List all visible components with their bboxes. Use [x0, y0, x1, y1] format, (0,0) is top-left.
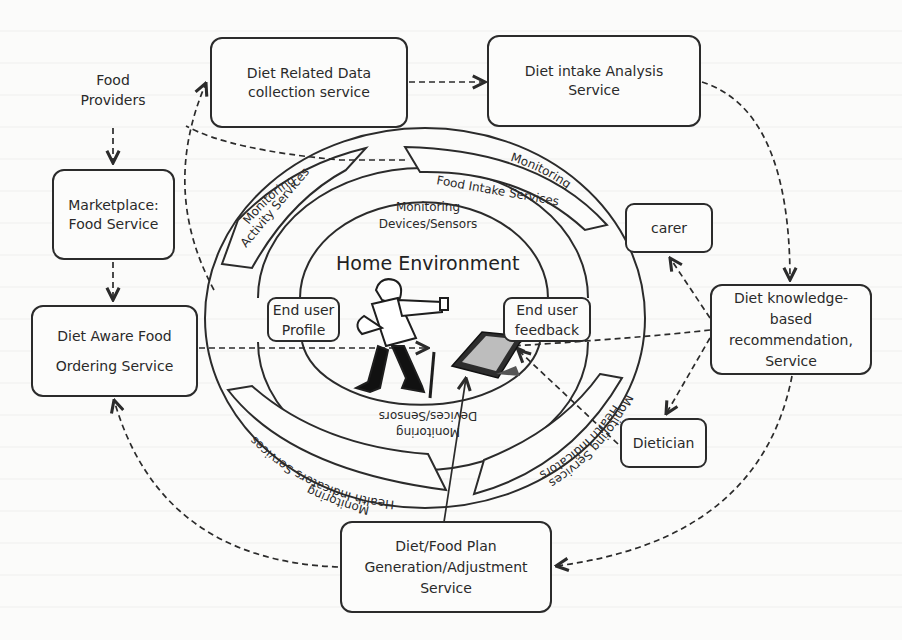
node-diet-intake-analysis[interactable]: Diet intake Analysis Service — [487, 35, 701, 127]
arrow-plan-to-tablet — [444, 378, 466, 522]
node-dietician[interactable]: Dietician — [620, 418, 707, 468]
node-line: Profile — [282, 320, 326, 340]
dashed-food-to-datacollection — [186, 126, 405, 160]
node-diet-related-data-collection[interactable]: Diet Related Data collection service — [210, 37, 408, 128]
node-diet-food-plan-generation[interactable]: Diet/Food Plan Generation/Adjustment Ser… — [340, 521, 552, 613]
arrow-knowledge-to-carer — [670, 258, 710, 318]
node-line: Diet intake Analysis — [525, 62, 663, 81]
food-providers-label: Food Providers — [68, 70, 158, 110]
node-line: Diet/Food Plan — [395, 536, 496, 557]
node-line: End user — [273, 300, 335, 320]
node-line: End user — [516, 300, 578, 320]
home-environment-title: Home Environment — [336, 252, 519, 274]
node-line: recommendation, — [729, 330, 853, 351]
node-line: Diet Related Data — [247, 64, 371, 83]
node-end-user-profile[interactable]: End user Profile — [267, 297, 340, 342]
node-line: Service — [765, 351, 817, 372]
label-devices-top-1: Monitoring — [396, 200, 460, 214]
node-marketplace-food-service[interactable]: Marketplace: Food Service — [52, 169, 175, 260]
arrow-knowledge-to-dietician — [666, 338, 710, 414]
food-providers-line-2: Providers — [68, 90, 158, 110]
node-line: Diet knowledge- — [734, 288, 848, 309]
label-monitoring-activity-2: Activity Services — [238, 165, 313, 250]
node-line: Service — [568, 81, 620, 100]
arrow-analysis-to-knowledge — [702, 82, 790, 280]
node-line: collection service — [248, 83, 370, 102]
label-devices-top-2: Devices/Sensors — [379, 217, 478, 231]
elderly-user-icon — [356, 279, 448, 398]
node-line: Ordering Service — [56, 351, 174, 381]
food-providers-line-1: Food — [68, 70, 158, 90]
node-line: feedback — [515, 320, 579, 340]
node-line: based — [770, 309, 812, 330]
node-carer[interactable]: carer — [625, 203, 713, 253]
node-end-user-feedback[interactable]: End user feedback — [503, 297, 591, 342]
label-devices-bottom-2: Devices/Sensors — [379, 409, 478, 423]
node-line: Generation/Adjustment — [364, 557, 527, 578]
node-line: carer — [651, 219, 687, 238]
node-line: Dietician — [633, 434, 695, 453]
node-line: Diet Aware Food — [57, 321, 171, 351]
node-line: Service — [420, 578, 472, 599]
node-line: Marketplace: — [68, 196, 159, 215]
node-diet-aware-food-ordering[interactable]: Diet Aware Food Ordering Service — [31, 305, 198, 397]
label-devices-bottom-1: Monitoring — [396, 425, 460, 439]
node-line: Food Service — [69, 215, 159, 234]
node-diet-knowledge-recommendation[interactable]: Diet knowledge- based recommendation, Se… — [710, 284, 872, 375]
